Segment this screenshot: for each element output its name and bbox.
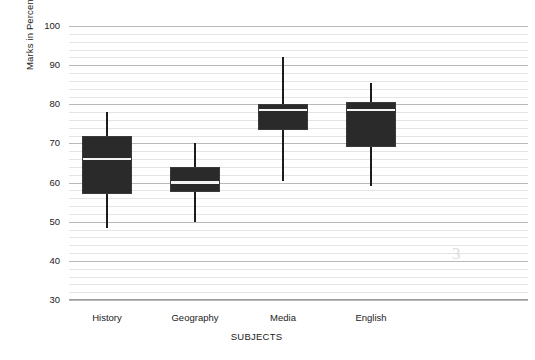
x-axis-tick-label: Media xyxy=(238,312,328,323)
y-axis-title-container: Marks in Percentages % xyxy=(10,70,26,270)
gridline-major xyxy=(69,300,528,301)
x-axis-title-container: SUBJECTS xyxy=(0,331,535,342)
box-plot-item xyxy=(346,26,396,300)
box-plot-item xyxy=(82,26,132,300)
y-axis-tick-label: 30 xyxy=(30,295,60,305)
y-axis-tick-label: 100 xyxy=(30,21,60,31)
whisker-upper xyxy=(106,112,108,136)
x-axis-tick-label: Geography xyxy=(150,312,240,323)
median-line xyxy=(347,109,395,111)
median-line xyxy=(83,158,131,160)
x-axis-tick-label: English xyxy=(326,312,416,323)
whisker-lower xyxy=(106,194,108,227)
whisker-lower xyxy=(282,130,284,181)
box-plot-item xyxy=(258,26,308,300)
x-axis-title: SUBJECTS xyxy=(231,331,283,342)
box-plot-item xyxy=(170,26,220,300)
x-axis-tick-label: History xyxy=(62,312,152,323)
y-axis-tick-label: 70 xyxy=(30,138,60,148)
box-iqr-rect xyxy=(170,167,220,192)
y-axis-tick-label: 90 xyxy=(30,60,60,70)
box-iqr-rect xyxy=(82,136,132,195)
scan-artifact-mark: 3 xyxy=(452,243,462,265)
whisker-upper xyxy=(370,83,372,103)
y-axis-tick-label: 80 xyxy=(30,99,60,109)
y-axis-tick-label: 50 xyxy=(30,217,60,227)
whisker-upper xyxy=(282,57,284,104)
median-line xyxy=(259,109,307,111)
y-axis-tick-label: 40 xyxy=(30,256,60,266)
whisker-upper xyxy=(194,143,196,167)
whisker-lower xyxy=(194,192,196,221)
median-line xyxy=(171,181,219,183)
box-plot-chart: Marks in Percentages % 10090807060504030… xyxy=(0,0,535,360)
whisker-lower xyxy=(370,147,372,186)
y-axis-tick-label: 60 xyxy=(30,178,60,188)
